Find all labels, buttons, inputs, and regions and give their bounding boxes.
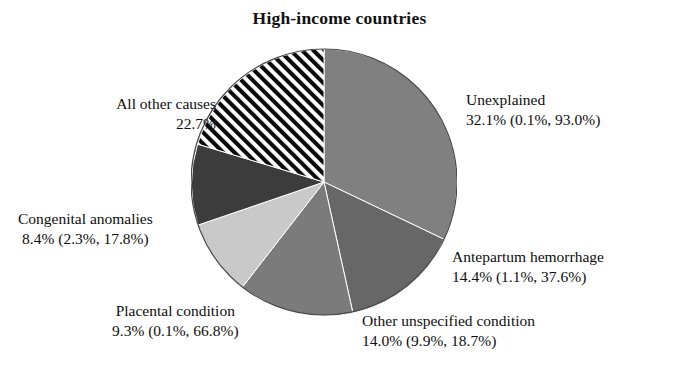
- chart-title: High-income countries: [0, 8, 679, 29]
- pie-label-other-unspecified-condition: Other unspecified condition 14.0% (9.9%,…: [362, 311, 535, 351]
- pie-label-other-unspecified-condition-value: 14.0% (9.9%, 18.7%): [362, 331, 535, 351]
- pie-label-placental-condition: Placental condition 9.3% (0.1%, 66.8%): [112, 301, 239, 341]
- pie-label-congenital-anomalies-name: Congenital anomalies: [18, 209, 153, 229]
- pie-label-all-other-causes-name: All other causes: [38, 94, 216, 114]
- pie-label-unexplained: Unexplained 32.1% (0.1%, 93.0%): [466, 90, 600, 130]
- pie-label-antepartum-hemorrhage: Antepartum hemorrhage 14.4% (1.1%, 37.6%…: [452, 247, 604, 287]
- pie-label-other-unspecified-condition-name: Other unspecified condition: [362, 311, 535, 331]
- pie-label-antepartum-hemorrhage-name: Antepartum hemorrhage: [452, 247, 604, 267]
- pie-chart-figure: High-income countries Unexplained 32.1% …: [0, 0, 679, 378]
- pie-label-all-other-causes-value: 22.7%: [38, 114, 216, 134]
- pie-label-congenital-anomalies: Congenital anomalies 8.4% (2.3%, 17.8%): [18, 209, 153, 249]
- pie-label-unexplained-value: 32.1% (0.1%, 93.0%): [466, 110, 600, 130]
- pie-label-placental-condition-value: 9.3% (0.1%, 66.8%): [112, 321, 239, 341]
- pie-label-all-other-causes: All other causes 22.7%: [38, 94, 216, 134]
- pie-label-unexplained-name: Unexplained: [466, 90, 600, 110]
- pie-chart-graphic: [191, 44, 457, 320]
- pie-label-congenital-anomalies-value: 8.4% (2.3%, 17.8%): [18, 229, 153, 249]
- pie-label-placental-condition-name: Placental condition: [112, 301, 239, 321]
- pie-label-antepartum-hemorrhage-value: 14.4% (1.1%, 37.6%): [452, 267, 604, 287]
